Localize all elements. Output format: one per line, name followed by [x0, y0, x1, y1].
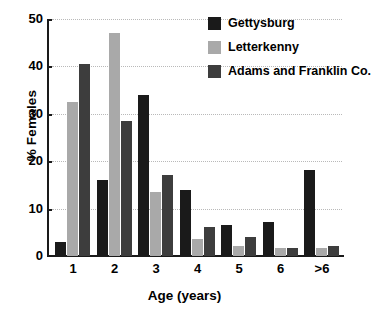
- legend-item-letterkenny: Letterkenny: [208, 40, 371, 54]
- bar: [150, 192, 161, 256]
- bar: [79, 64, 90, 256]
- bar: [245, 237, 256, 256]
- x-tick-label: 3: [134, 262, 178, 275]
- bar-group: [55, 19, 91, 256]
- legend-item-adams-and-franklin-co: Adams and Franklin Co.: [208, 64, 371, 78]
- x-tick-label: 6: [259, 262, 303, 275]
- x-tick-label: 1: [51, 262, 95, 275]
- bar: [55, 242, 66, 256]
- bar: [109, 33, 120, 256]
- bar: [180, 190, 191, 256]
- bar: [121, 121, 132, 256]
- legend-item-label: Adams and Franklin Co.: [228, 65, 371, 78]
- x-tick-label: >6: [300, 262, 344, 275]
- bar: [97, 180, 108, 256]
- bar: [192, 239, 203, 256]
- x-tick-label: 2: [93, 262, 137, 275]
- bar: [204, 227, 215, 256]
- bar-group: [97, 19, 133, 256]
- x-tick-label: 5: [217, 262, 261, 275]
- bar-group: [138, 19, 174, 256]
- y-tick-label: 50: [10, 12, 43, 25]
- bar: [328, 246, 339, 256]
- y-tick-label: 0: [10, 249, 43, 262]
- legend-item-label: Gettysburg: [228, 17, 295, 30]
- bar: [287, 248, 298, 256]
- bar: [233, 246, 244, 256]
- bar: [263, 222, 274, 256]
- bar: [162, 175, 173, 256]
- bar: [304, 170, 315, 256]
- legend-swatch-icon: [208, 17, 221, 30]
- bar: [67, 102, 78, 256]
- x-tick-label: 4: [176, 262, 220, 275]
- legend-item-gettysburg: Gettysburg: [208, 16, 371, 30]
- bar: [138, 95, 149, 256]
- x-axis-title: Age (years): [0, 288, 369, 303]
- legend-swatch-icon: [208, 65, 221, 78]
- legend-item-label: Letterkenny: [228, 41, 299, 54]
- legend-swatch-icon: [208, 41, 221, 54]
- y-tick-label: 10: [10, 202, 43, 215]
- chart-legend: Gettysburg Letterkenny Adams and Frankli…: [208, 16, 371, 88]
- y-axis-title: % Females: [24, 71, 39, 181]
- bar: [221, 225, 232, 256]
- bar: [316, 248, 327, 256]
- bar: [275, 248, 286, 256]
